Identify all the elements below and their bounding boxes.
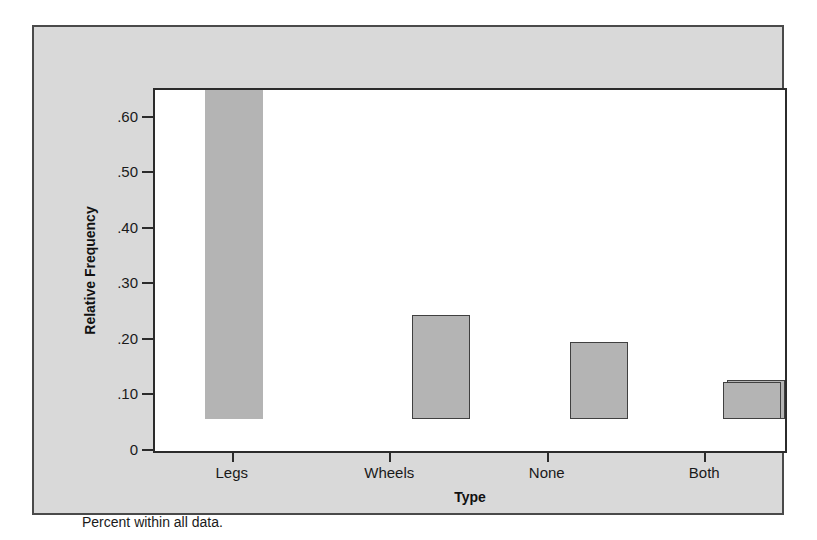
y-tick-mark-2 [142, 338, 153, 340]
y-tick-label-3: .30 [82, 274, 138, 291]
y-tick-mark-5 [142, 171, 153, 173]
x-tick-label-both: Both [689, 464, 720, 481]
bar-legs[interactable] [412, 315, 470, 419]
bar-both[interactable] [723, 382, 781, 419]
y-tick-mark-0 [142, 449, 153, 451]
x-tick-label-none: None [529, 464, 565, 481]
x-tick-mark-wheels [389, 453, 391, 462]
plot-inner [155, 90, 785, 451]
chart-panel: Relative Frequency 0 .10 .20 .30 .40 .50… [32, 25, 784, 515]
x-tick-label-legs: Legs [215, 464, 248, 481]
y-tick-label-4: .40 [82, 218, 138, 235]
chart-footnote: Percent within all data. [82, 514, 223, 530]
plot-area [153, 88, 787, 453]
y-tick-label-2: .20 [82, 329, 138, 346]
x-tick-label-wheels: Wheels [364, 464, 414, 481]
y-tick-mark-1 [142, 393, 153, 395]
bar-series [205, 90, 263, 419]
y-tick-label-6: .60 [82, 107, 138, 124]
x-tick-mark-both [704, 453, 706, 462]
bar-wheels[interactable] [570, 342, 628, 419]
y-tick-mark-3 [142, 282, 153, 284]
y-tick-mark-6 [142, 116, 153, 118]
y-tick-label-5: .50 [82, 163, 138, 180]
y-tick-mark-4 [142, 227, 153, 229]
x-tick-mark-legs [232, 453, 234, 462]
y-tick-label-0: 0 [82, 441, 138, 458]
y-tick-label-1: .10 [82, 385, 138, 402]
x-tick-mark-none [547, 453, 549, 462]
x-axis-title: Type [153, 489, 787, 505]
chart-root: Relative Frequency 0 .10 .20 .30 .40 .50… [0, 0, 817, 540]
